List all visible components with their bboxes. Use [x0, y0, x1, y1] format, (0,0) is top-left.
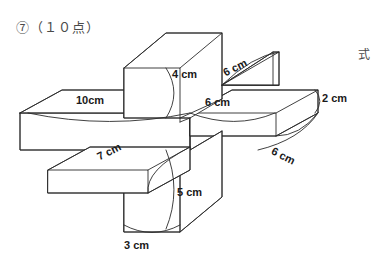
geometry-figure: 4 cm 6 cm 10cm 6 cm 2 cm 6 cm 7 cm 5 cm … — [0, 0, 390, 263]
dim-label-bottom-bar-height: 5 cm — [177, 187, 202, 198]
dim-label-left-bar-length: 10cm — [76, 95, 104, 106]
dim-label-right-bar-length: 6 cm — [205, 97, 230, 108]
dim-label-bottom-bar-width: 3 cm — [124, 240, 149, 251]
dim-label-right-bar-height: 2 cm — [322, 93, 347, 104]
dim-label-top-bar-height: 4 cm — [172, 69, 197, 80]
worksheet-page: ⑦（１０点） 式 — [0, 0, 390, 263]
geometry-figure-svg — [0, 0, 390, 263]
